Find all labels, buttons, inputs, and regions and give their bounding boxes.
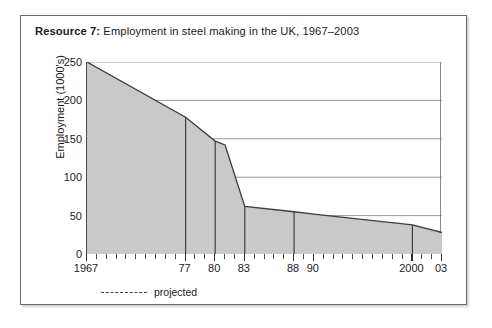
screenshot-stage: Resource 7: Employment in steel making i… — [0, 0, 492, 328]
x-axis-tick — [382, 254, 383, 259]
y-axis-tick-label: 50 — [38, 210, 82, 222]
x-axis-tick — [421, 254, 422, 259]
x-axis-tick — [411, 254, 412, 261]
x-axis-tick-label: 80 — [208, 262, 220, 274]
x-axis-tick — [293, 254, 294, 261]
area-chart-svg — [87, 62, 442, 254]
area-fill — [87, 62, 442, 254]
x-axis-tick — [402, 254, 403, 259]
x-axis-tick-label: 90 — [307, 262, 319, 274]
x-axis-tick-label: 83 — [238, 262, 250, 274]
resource-title-text: Employment in steel making in the UK, 19… — [100, 25, 359, 37]
x-axis-tick — [342, 254, 343, 259]
resource-number: Resource 7: — [35, 25, 100, 37]
x-axis-tick — [204, 254, 205, 259]
x-axis-tick — [165, 254, 166, 259]
x-axis-tick — [96, 254, 97, 259]
x-axis-tick — [145, 254, 146, 259]
x-axis-tick — [283, 254, 284, 259]
x-axis-tick — [234, 254, 235, 259]
x-axis-tick — [185, 254, 186, 261]
x-axis-tick-label: 77 — [178, 262, 190, 274]
x-axis-tick — [106, 254, 107, 259]
x-axis-tick — [392, 254, 393, 259]
chart-legend: projected — [101, 286, 197, 298]
x-axis-tick — [333, 254, 334, 259]
x-axis-tick — [244, 254, 245, 261]
y-axis-tick-label: 150 — [38, 133, 82, 145]
x-axis-tick — [264, 254, 265, 259]
x-axis-tick — [116, 254, 117, 259]
dashed-line-icon — [101, 292, 147, 293]
x-axis-tick-label: 2000 — [399, 262, 423, 274]
x-axis-tick — [175, 254, 176, 259]
x-axis-tick — [224, 254, 225, 259]
x-axis-tick — [86, 254, 87, 261]
x-axis-tick — [441, 254, 442, 261]
x-axis-tick-labels: 19677780838890200003 — [86, 262, 446, 278]
y-axis-tick-labels: 050100150200250 — [35, 62, 82, 254]
resource-card: Resource 7: Employment in steel making i… — [20, 15, 467, 305]
y-axis-tick-label: 250 — [38, 56, 82, 68]
legend-label: projected — [154, 286, 197, 298]
x-axis-tick — [372, 254, 373, 259]
x-axis-tick-label: 03 — [435, 262, 447, 274]
y-axis-tick-label: 200 — [38, 94, 82, 106]
x-axis-tick — [313, 254, 314, 261]
chart-container: Employment (1000's) 050100150200250 1967… — [35, 49, 455, 294]
y-axis-tick-label: 100 — [38, 171, 82, 183]
page-title: Resource 7: Employment in steel making i… — [35, 25, 359, 37]
x-axis-tick — [155, 254, 156, 259]
x-axis-ticks — [86, 254, 441, 261]
x-axis-tick — [362, 254, 363, 259]
x-axis-tick — [194, 254, 195, 259]
x-axis-tick-label: 88 — [287, 262, 299, 274]
x-axis-tick — [273, 254, 274, 259]
x-axis-tick-label: 1967 — [74, 262, 98, 274]
x-axis-tick — [135, 254, 136, 259]
x-axis-tick — [214, 254, 215, 261]
x-axis-tick — [323, 254, 324, 259]
x-axis-tick — [125, 254, 126, 259]
x-axis-tick — [303, 254, 304, 259]
plot-area — [86, 62, 441, 254]
x-axis-tick — [352, 254, 353, 259]
x-axis-tick — [254, 254, 255, 259]
y-axis-tick-label: 0 — [38, 248, 82, 260]
x-axis-tick — [431, 254, 432, 259]
